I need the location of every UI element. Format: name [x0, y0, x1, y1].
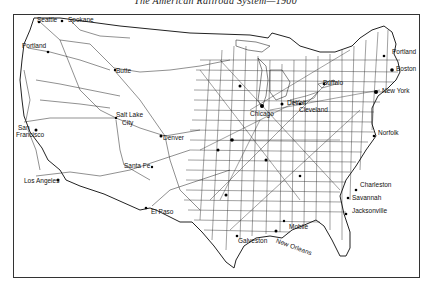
city-label-charleston: Charleston [360, 182, 391, 189]
city-label-salt-lake-city: City [122, 120, 133, 127]
city-label-norfolk: Norfolk [378, 130, 399, 137]
city-label-butte: Butte [116, 68, 131, 75]
city-label-jacksonville: Jacksonville [352, 208, 387, 215]
city-label-santa-fe: Santa Fe [124, 163, 150, 170]
city-label-cleveland: Cleveland [299, 107, 328, 114]
city-label-new-york: New York [382, 88, 409, 95]
city-label-seattle: Seattle [37, 17, 57, 24]
us-outline [20, 18, 400, 268]
city-label-chicago: Chicago [250, 111, 274, 118]
city-label-salt-lake: Salt Lake [116, 112, 143, 119]
railroad-map [0, 0, 431, 289]
city-label-portland-me: Portland [392, 49, 416, 56]
rail-lines-east [184, 30, 400, 250]
city-label-savannah: Savannah [352, 195, 381, 202]
city-label-portland-or: Portland [22, 43, 46, 50]
city-label-spokane: Spokane [68, 17, 94, 24]
city-label-los-angeles: Los Angeles [24, 178, 59, 185]
city-label-denver: Denver [163, 135, 184, 142]
michigan-lower [270, 70, 290, 100]
city-label-el-paso: El Paso [151, 209, 173, 216]
city-label-buffalo: Buffalo [323, 80, 343, 87]
city-label-francisco: Francisco [16, 132, 44, 139]
lake-superior [236, 40, 270, 52]
city-label-galveston: Galveston [238, 238, 267, 245]
city-label-mobile: Mobile [289, 224, 308, 231]
city-label-boston: Boston [396, 66, 416, 73]
